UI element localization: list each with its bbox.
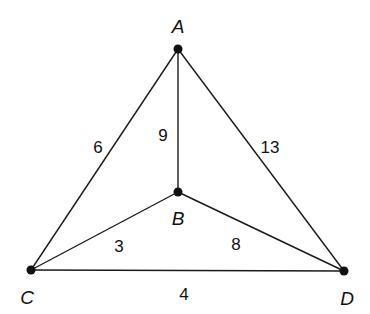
node-a-dot — [174, 45, 183, 54]
edge-b-d — [178, 192, 344, 271]
edges-group — [31, 49, 344, 271]
edge-weight-b-c: 3 — [114, 237, 123, 256]
edge-weight-a-c: 6 — [93, 138, 102, 157]
graph-diagram: 6913384 ABCD — [0, 0, 370, 314]
node-d-dot — [340, 267, 349, 276]
node-a-label: A — [171, 16, 185, 37]
graph-canvas: 6913384 ABCD — [0, 0, 370, 314]
edge-weights-group: 6913384 — [93, 126, 279, 304]
node-labels-group: ABCD — [20, 16, 354, 309]
node-c-dot — [27, 266, 36, 275]
node-c-label: C — [20, 287, 34, 308]
edge-c-d — [31, 270, 344, 271]
node-d-label: D — [340, 288, 354, 309]
node-b-dot — [174, 188, 183, 197]
edge-b-c — [31, 192, 178, 270]
node-b-label: B — [172, 208, 185, 229]
edge-weight-c-d: 4 — [179, 285, 188, 304]
edge-weight-b-d: 8 — [231, 235, 240, 254]
edge-weight-a-b: 9 — [158, 126, 167, 145]
nodes-group — [27, 45, 349, 276]
edge-a-d — [178, 49, 344, 271]
edge-a-c — [31, 49, 178, 270]
edge-weight-a-d: 13 — [261, 138, 280, 157]
